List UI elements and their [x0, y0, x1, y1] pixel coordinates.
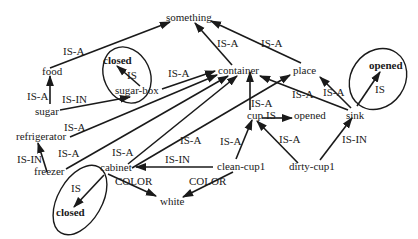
node-cabinet: cabinet	[100, 161, 132, 173]
node-dirty-cup1: dirty-cup1	[289, 160, 335, 172]
label-freezer-refrigerator: IS-IN	[17, 153, 42, 165]
node-place: place	[293, 64, 316, 76]
label-sugarbox-closed: IS	[127, 69, 137, 81]
label-sink-place: IS-A	[323, 86, 344, 98]
label-sugarbox-container: IS-A	[168, 67, 189, 79]
node-sugar-box: sugar-box	[115, 84, 159, 96]
label-cabinet-white: COLOR	[115, 175, 153, 187]
label-cabinet-container: IS-A	[112, 146, 133, 158]
label-cleancup-cabinet: IS-IN	[165, 153, 190, 165]
node-sugar: sugar	[35, 105, 59, 117]
label-cup-opened: IS	[266, 109, 276, 121]
semantic-network-diagram: something food sugar sugar-box closed co…	[0, 0, 418, 239]
node-white: white	[160, 195, 185, 207]
node-freezer: freezer	[34, 165, 65, 177]
label-sink-container: IS-A	[292, 88, 313, 100]
node-closed-cabinet: closed	[56, 206, 85, 218]
label-dirtycup-sink: IS-IN	[342, 133, 367, 145]
label-sugar-food: IS-A	[27, 90, 48, 102]
node-closed-sugarbox: closed	[103, 54, 132, 66]
node-opened-cup: opened	[294, 109, 326, 121]
node-something: something	[166, 11, 212, 23]
node-sink: sink	[346, 109, 365, 121]
label-cabinet-place: IS-A	[180, 134, 201, 146]
label-food-something: IS-A	[63, 45, 84, 57]
label-place-something: IS-A	[261, 37, 282, 49]
label-sink-opened: IS	[375, 83, 385, 95]
label-container-something: IS-A	[217, 37, 238, 49]
label-sugar-sugarbox: IS-IN	[62, 93, 87, 105]
label-dirtycup-cup: IS-A	[279, 133, 300, 145]
label-cup-container: IS-A	[251, 97, 272, 109]
label-cabinet-closed: IS	[71, 182, 81, 194]
node-food: food	[42, 65, 63, 77]
node-container: container	[218, 64, 259, 76]
node-opened-sink: opened	[369, 59, 403, 71]
node-clean-cup1: clean-cup1	[217, 160, 265, 172]
label-refrigerator-container: IS-A	[64, 121, 85, 133]
node-cup: cup	[247, 109, 263, 121]
node-refrigerator: refrigerator	[16, 130, 66, 142]
label-cleancup-cup: IS-A	[220, 135, 241, 147]
label-cleancup-white: COLOR	[189, 175, 227, 187]
label-freezer-container: IS-A	[58, 147, 79, 159]
